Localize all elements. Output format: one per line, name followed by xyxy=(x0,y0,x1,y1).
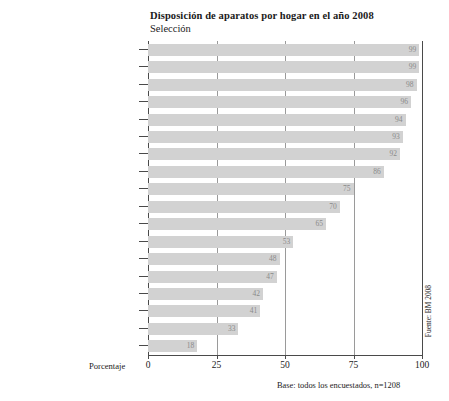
bar-value-label: 99 xyxy=(148,44,419,56)
category-tick xyxy=(139,101,148,102)
bar-value-label: 94 xyxy=(148,114,406,126)
category-tick xyxy=(139,328,148,329)
bar-row: 93Reproductor de MP3/iPod xyxy=(148,130,422,144)
bar-value-label: 47 xyxy=(148,271,277,283)
x-tick-25 xyxy=(217,355,218,359)
category-tick xyxy=(139,136,148,137)
category-tick xyxy=(139,119,148,120)
bar-value-label: 96 xyxy=(148,96,411,108)
plot-area: 99Teléfono celular99Computador/Laptop98T… xyxy=(148,41,422,355)
bar-row: 70Grabadora xyxy=(148,200,422,214)
x-axis-title: Porcentaje xyxy=(89,361,125,371)
x-tick-label-50: 50 xyxy=(280,360,290,370)
bar-row: 47Tocadiscos xyxy=(148,270,422,284)
bar-row: 41Televisor pantalla plana xyxy=(148,304,422,318)
category-tick xyxy=(139,84,148,85)
bar-value-label: 33 xyxy=(148,323,238,335)
bar-row: 98Televisor xyxy=(148,78,422,92)
x-tick-label-0: 0 xyxy=(146,360,151,370)
bar-value-label: 18 xyxy=(148,340,197,352)
x-tick-label-25: 25 xyxy=(212,360,222,370)
category-tick xyxy=(139,188,148,189)
bar-row: 99Computador/Laptop xyxy=(148,60,422,74)
category-tick xyxy=(139,293,148,294)
category-tick xyxy=(139,276,148,277)
bar-row: 53Consola de juegos portátil xyxy=(148,235,422,249)
bar-row: 18Grabador de mini disc xyxy=(148,339,422,353)
bar-row: 75Videograbadora xyxy=(148,182,422,196)
base-note: Base: todos los encuestados, n=1208 xyxy=(277,381,400,390)
x-tick-label-100: 100 xyxy=(415,360,429,370)
x-tick-75 xyxy=(354,355,355,359)
source-note: Fuente: BM 2008 xyxy=(424,285,433,337)
category-tick xyxy=(139,258,148,259)
category-tick xyxy=(139,206,148,207)
bar-row: 94Reproductor de CD xyxy=(148,113,422,127)
category-tick xyxy=(139,153,148,154)
bar-row: 48Walkman/Discman xyxy=(148,252,422,266)
bar-value-label: 92 xyxy=(148,148,400,160)
category-tick xyxy=(139,171,148,172)
bar-value-label: 53 xyxy=(148,236,293,248)
bar-row: 86Reproductor de DVD (no PC) xyxy=(148,165,422,179)
title-block: Disposición de aparatos por hogar en el … xyxy=(150,9,374,35)
category-tick xyxy=(139,345,148,346)
bar-row: 33Teléfono celular UMTS xyxy=(148,322,422,336)
bar-row: 99Teléfono celular xyxy=(148,43,422,57)
bar-value-label: 93 xyxy=(148,131,403,143)
bar-row: 65Consola de juegos fija (TV/PC) xyxy=(148,217,422,231)
bar-row: 96Acceso a Internet xyxy=(148,95,422,109)
x-tick-100 xyxy=(422,355,423,359)
category-tick xyxy=(139,223,148,224)
category-tick xyxy=(139,49,148,50)
category-tick xyxy=(139,310,148,311)
category-tick xyxy=(139,66,148,67)
x-tick-0 xyxy=(148,355,149,359)
bar-value-label: 99 xyxy=(148,61,419,73)
bar-value-label: 41 xyxy=(148,305,260,317)
category-tick xyxy=(139,241,148,242)
bar-value-label: 42 xyxy=(148,288,263,300)
x-tick-50 xyxy=(285,355,286,359)
x-tick-label-75: 75 xyxy=(349,360,359,370)
chart-subtitle: Selección xyxy=(150,22,374,35)
bar-row: 42Grabador de DVD xyxy=(148,287,422,301)
chart-title: Disposición de aparatos por hogar en el … xyxy=(150,9,374,22)
bar-value-label: 86 xyxy=(148,166,384,178)
bar-value-label: 98 xyxy=(148,79,417,91)
bar-value-label: 75 xyxy=(148,183,354,195)
bar-row: 92Cámara digital xyxy=(148,147,422,161)
bar-value-label: 65 xyxy=(148,218,326,230)
axis-spine xyxy=(422,41,423,355)
bar-value-label: 70 xyxy=(148,201,340,213)
bar-value-label: 48 xyxy=(148,253,280,265)
